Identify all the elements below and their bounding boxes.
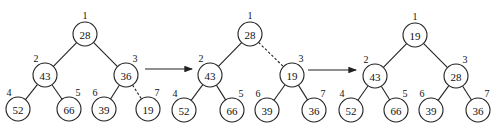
node-index-label: 7 bbox=[155, 87, 160, 98]
tree-node: 281 bbox=[73, 10, 97, 46]
node-index-label: 4 bbox=[7, 87, 12, 98]
node-value: 66 bbox=[391, 105, 403, 117]
node-value: 28 bbox=[451, 71, 463, 83]
tree-edge bbox=[191, 85, 203, 101]
swap-edge-dashed bbox=[259, 42, 284, 66]
tree-edge bbox=[52, 85, 62, 99]
tree-node: 283 bbox=[444, 54, 468, 88]
tree-edge bbox=[358, 86, 368, 100]
node-value: 36 bbox=[473, 105, 485, 117]
tree-node: 432 bbox=[33, 53, 57, 87]
tree-node: 524 bbox=[6, 87, 30, 121]
node-value: 66 bbox=[227, 105, 239, 117]
tree-node: 363 bbox=[114, 53, 138, 87]
node-value: 52 bbox=[179, 105, 190, 117]
tree-edge bbox=[25, 84, 37, 99]
node-value: 52 bbox=[13, 104, 24, 116]
node-index-label: 2 bbox=[364, 54, 369, 65]
node-value: 28 bbox=[80, 29, 92, 41]
node-index-label: 4 bbox=[340, 88, 345, 99]
node-value: 43 bbox=[205, 70, 217, 82]
tree-edge bbox=[463, 86, 472, 100]
tree-node: 396 bbox=[92, 87, 116, 121]
heap-diagram: 2814323635246653961972814321935246653963… bbox=[0, 0, 499, 135]
node-value: 19 bbox=[410, 30, 422, 42]
tree-edge bbox=[53, 43, 76, 67]
node-value: 36 bbox=[121, 70, 133, 82]
nodes-layer: 2814323635246653961972814321935246653963… bbox=[6, 10, 490, 122]
heap-tree-2-nodes: 281432193524665396367 bbox=[172, 10, 326, 122]
swap-edge-dashed bbox=[133, 85, 142, 99]
transition-arrows bbox=[145, 69, 356, 70]
node-index-label: 5 bbox=[76, 87, 81, 98]
tree-edge bbox=[216, 85, 225, 100]
node-index-label: 3 bbox=[463, 54, 468, 65]
node-value: 28 bbox=[245, 29, 257, 41]
tree-edge bbox=[274, 85, 285, 100]
node-index-label: 7 bbox=[321, 88, 326, 99]
node-value: 66 bbox=[64, 104, 76, 116]
tree-node: 665 bbox=[57, 87, 81, 121]
node-index-label: 4 bbox=[173, 88, 178, 99]
node-index-label: 1 bbox=[413, 11, 418, 22]
tree-node: 665 bbox=[220, 88, 244, 122]
node-index-label: 1 bbox=[248, 10, 253, 21]
node-index-label: 7 bbox=[485, 88, 490, 99]
tree-node: 665 bbox=[384, 88, 408, 122]
node-index-label: 2 bbox=[34, 53, 39, 64]
tree-node: 524 bbox=[172, 88, 196, 122]
tree-node: 197 bbox=[136, 87, 160, 121]
tree-edge bbox=[381, 86, 389, 100]
heap-tree-3-nodes: 191432283524665396367 bbox=[339, 11, 490, 122]
tree-edge bbox=[383, 44, 406, 68]
tree-node: 367 bbox=[466, 88, 490, 122]
tree-node: 396 bbox=[419, 88, 443, 122]
tree-node: 432 bbox=[198, 53, 222, 87]
tree-node: 281 bbox=[238, 10, 262, 46]
node-value: 36 bbox=[309, 105, 321, 117]
node-index-label: 3 bbox=[133, 53, 138, 64]
node-index-label: 5 bbox=[239, 88, 244, 99]
node-index-label: 2 bbox=[199, 53, 204, 64]
tree-node: 524 bbox=[339, 88, 363, 122]
tree-edge bbox=[93, 42, 117, 66]
tree-edge bbox=[218, 43, 241, 67]
node-value: 39 bbox=[426, 105, 438, 117]
heap-tree-1-nodes: 281432363524665396197 bbox=[6, 10, 160, 121]
tree-node: 432 bbox=[363, 54, 387, 88]
node-value: 43 bbox=[40, 70, 52, 82]
node-index-label: 1 bbox=[83, 10, 88, 21]
tree-node: 367 bbox=[302, 88, 326, 122]
node-index-label: 3 bbox=[299, 53, 304, 64]
tree-edge bbox=[298, 85, 307, 100]
tree-edge bbox=[423, 43, 447, 67]
node-index-label: 6 bbox=[93, 87, 98, 98]
node-index-label: 6 bbox=[420, 88, 425, 99]
tree-edge bbox=[111, 85, 120, 99]
node-value: 19 bbox=[287, 70, 299, 82]
tree-edge bbox=[438, 86, 449, 101]
node-value: 39 bbox=[99, 104, 111, 116]
node-value: 19 bbox=[143, 104, 155, 116]
node-index-label: 5 bbox=[403, 88, 408, 99]
node-value: 39 bbox=[262, 105, 274, 117]
tree-node: 396 bbox=[255, 88, 279, 122]
node-value: 43 bbox=[370, 71, 382, 83]
node-value: 52 bbox=[346, 105, 357, 117]
node-index-label: 6 bbox=[256, 88, 261, 99]
tree-node: 193 bbox=[280, 53, 304, 87]
tree-node: 191 bbox=[403, 11, 427, 47]
